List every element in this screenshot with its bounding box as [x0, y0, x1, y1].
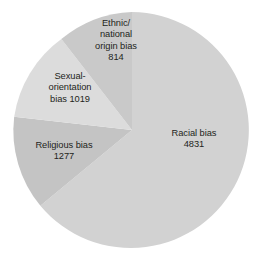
pie-chart-figure: Racial bias 4831 Religious bias 1277 Sex…: [0, 0, 258, 263]
pie-chart-svg: [0, 0, 258, 263]
